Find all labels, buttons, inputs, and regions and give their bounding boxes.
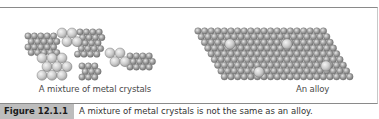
mixture-label: A mixture of metal crystals — [0, 84, 190, 94]
panel-alloy: An alloy — [190, 8, 377, 103]
figure-caption: Figure 12.1.1A mixture of metal crystals… — [0, 104, 379, 119]
panel-metal-mixture: A mixture of metal crystals — [0, 8, 190, 103]
figure-frame: A mixture of metal crystals An alloy — [0, 7, 378, 104]
metal-crystals-illustration — [0, 8, 190, 88]
figure-number: Figure 12.1.1 — [0, 104, 74, 119]
caption-text: A mixture of metal crystals is not the s… — [74, 104, 313, 116]
alloy-illustration — [190, 8, 377, 88]
alloy-label: An alloy — [296, 84, 329, 94]
